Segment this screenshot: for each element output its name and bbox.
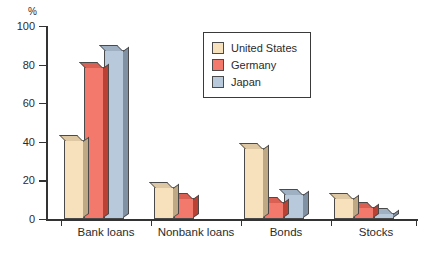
bar-top-face — [239, 143, 263, 149]
y-axis-tick-label: 60 — [23, 96, 35, 110]
bar-top-face — [149, 182, 173, 188]
legend-item: Germany — [212, 57, 302, 73]
legend-item: Japan — [212, 74, 302, 90]
bar-side-face — [83, 137, 89, 218]
y-axis-tick: 40 — [39, 142, 46, 143]
bar-group-bars — [334, 26, 418, 219]
bar-top-face — [99, 45, 123, 51]
x-axis-tick — [151, 220, 152, 226]
x-axis-group-label: Bank loans — [64, 225, 148, 239]
legend-item: United States — [212, 40, 302, 56]
y-axis-tick-label: 100 — [17, 19, 35, 33]
bar-side-face — [123, 47, 129, 218]
y-axis-unit-label: % — [28, 6, 37, 17]
y-axis-tick: 60 — [39, 103, 46, 104]
bar — [64, 140, 84, 219]
x-axis-tick — [331, 220, 332, 226]
bar-top-face — [279, 189, 303, 195]
x-axis-tick — [241, 220, 242, 226]
y-axis-tick: 0 — [39, 219, 46, 220]
legend-label: Japan — [231, 76, 261, 89]
bar-chart: % 020406080100 Bank loansNonbank loansBo… — [0, 0, 447, 254]
x-axis-tick — [61, 220, 62, 226]
legend-label: United States — [231, 42, 297, 55]
legend-swatch — [212, 42, 224, 54]
y-axis-line — [46, 26, 48, 220]
bar-side-face — [353, 194, 359, 218]
y-axis-tick: 20 — [39, 180, 46, 181]
bar-side-face — [193, 194, 199, 218]
y-axis-tick-label: 80 — [23, 58, 35, 72]
bar-group-bars — [64, 26, 148, 219]
bar-top-face — [59, 135, 83, 141]
legend-swatch — [212, 59, 224, 71]
y-axis-tick: 100 — [39, 26, 46, 27]
bar-group: Stocks — [334, 26, 418, 219]
bar-side-face — [303, 191, 309, 218]
y-axis-tick-label: 0 — [29, 212, 35, 226]
chart-legend: United StatesGermanyJapan — [203, 32, 311, 98]
bar-group: Bank loans — [64, 26, 148, 219]
y-axis-tick-label: 20 — [23, 173, 35, 187]
bar — [244, 148, 264, 219]
y-axis-tick: 80 — [39, 65, 46, 66]
bar-side-face — [173, 184, 179, 218]
x-axis-group-label: Bonds — [244, 225, 328, 239]
x-axis-line — [46, 219, 418, 221]
x-axis-group-label: Stocks — [334, 225, 418, 239]
legend-swatch — [212, 76, 224, 88]
bar-side-face — [103, 63, 109, 218]
bar-side-face — [263, 144, 269, 218]
bar — [334, 198, 354, 219]
bar-top-face — [79, 62, 103, 68]
legend-label: Germany — [231, 59, 276, 72]
y-axis-tick-label: 40 — [23, 135, 35, 149]
x-axis-group-label: Nonbank loans — [154, 225, 238, 239]
bar — [154, 187, 174, 219]
bar-top-face — [329, 193, 353, 199]
